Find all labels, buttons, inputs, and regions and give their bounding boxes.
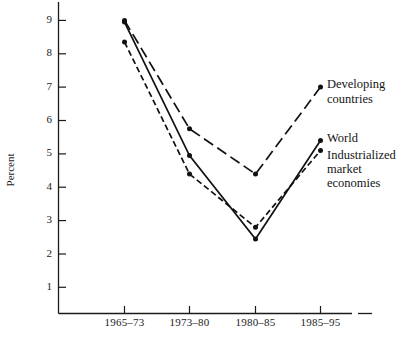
y-tick-label-1: 1 [47, 280, 53, 292]
data-point [253, 237, 258, 242]
series-line-developing-countries [125, 20, 321, 174]
series-label-world: World [327, 131, 359, 145]
series-world [122, 20, 323, 242]
x-tick-label-1973-80: 1973–80 [170, 316, 210, 328]
x-tick-label-1985-95: 1985–95 [301, 316, 341, 328]
series-label-industrialized-line3: economies [327, 176, 381, 190]
data-point [187, 172, 192, 177]
data-point [253, 172, 258, 177]
y-ticks: 9 8 7 6 5 4 3 2 1 [47, 13, 67, 292]
y-tick-label-9: 9 [47, 13, 53, 25]
y-tick-label-7: 7 [47, 80, 53, 92]
x-ticks: 1965–73 1973–80 1980–85 1985–95 [105, 306, 341, 328]
data-point [318, 138, 323, 143]
line-chart: 9 8 7 6 5 4 3 2 1 1965–73 1973–80 1980–8… [0, 0, 402, 337]
data-point [253, 225, 258, 230]
x-tick-label-1965-73: 1965–73 [105, 316, 145, 328]
data-point [187, 126, 192, 131]
y-tick-label-2: 2 [47, 247, 53, 259]
data-point [122, 20, 127, 25]
y-tick-label-6: 6 [47, 113, 53, 125]
series-label-developing-countries-line2: countries [327, 92, 373, 106]
series-annotations: Developing countries World Industrialize… [327, 77, 396, 190]
series-line-world [125, 22, 321, 239]
y-tick-label-3: 3 [47, 213, 53, 225]
series-developing-countries [122, 18, 323, 177]
data-point [318, 148, 323, 153]
axes [59, 2, 373, 314]
data-point [122, 40, 127, 45]
y-tick-label-4: 4 [47, 180, 53, 192]
x-tick-label-1980-85: 1980–85 [236, 316, 276, 328]
series-label-developing-countries-line1: Developing [327, 77, 386, 91]
y-tick-label-8: 8 [47, 46, 53, 58]
series-label-industrialized-line1: Industrialized [327, 148, 396, 162]
y-axis-title: Percent [4, 154, 16, 187]
chart-figure: 9 8 7 6 5 4 3 2 1 1965–73 1973–80 1980–8… [0, 0, 402, 337]
data-point [318, 85, 323, 90]
y-tick-label-5: 5 [47, 146, 53, 158]
series-label-industrialized-line2: market [327, 162, 362, 176]
data-point [187, 153, 192, 158]
